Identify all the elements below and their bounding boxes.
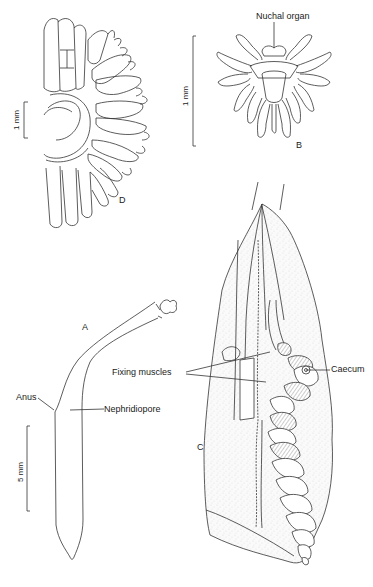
panel-d-drawing — [44, 18, 149, 227]
label-nephridiopore: Nephridiopore — [104, 404, 161, 414]
panel-letter-b: B — [296, 140, 302, 150]
label-nuchal-organ: Nuchal organ — [256, 11, 310, 21]
panel-letter-c: C — [197, 442, 204, 452]
scale-bar-a — [27, 426, 30, 511]
label-fixing-muscles: Fixing muscles — [112, 367, 172, 377]
panel-b-drawing — [217, 22, 331, 137]
panel-c-drawing — [204, 182, 333, 565]
figure: Nuchal organ Fixing muscles Caecum Anus … — [0, 0, 373, 587]
panel-a-drawing — [55, 300, 177, 559]
scale-bar-b — [193, 36, 196, 146]
scale-label-b: 1 mm — [181, 86, 190, 106]
scale-label-a: 5 mm — [16, 462, 25, 482]
label-anus: Anus — [16, 392, 37, 402]
panel-letter-a: A — [82, 322, 88, 332]
scale-bar-d — [24, 102, 28, 138]
label-caecum: Caecum — [331, 364, 365, 374]
panel-letter-d: D — [119, 195, 126, 205]
scale-label-d: 1 mm — [12, 110, 21, 130]
